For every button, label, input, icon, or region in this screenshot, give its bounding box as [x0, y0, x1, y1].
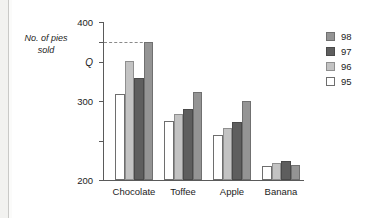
bar-banana-96 [272, 163, 282, 180]
legend-label-96: 96 [341, 61, 352, 72]
bar-chocolate-98 [144, 42, 154, 180]
x-axis-label-chocolate: Chocolate [113, 186, 156, 197]
y-axis-title: No. of pies sold [6, 33, 86, 56]
q-tick-mark: Q [99, 42, 103, 43]
bar-toffee-96 [174, 114, 184, 180]
legend: 98979695 [326, 29, 370, 89]
y-tick-mark: 400 [99, 22, 103, 23]
x-axis-label-toffee: Toffee [170, 186, 196, 197]
bar-apple-95 [213, 135, 223, 180]
legend-item-95[interactable]: 95 [326, 74, 370, 89]
bar-apple-96 [223, 128, 233, 180]
legend-item-97[interactable]: 97 [326, 44, 370, 59]
bar-chocolate-97 [134, 78, 144, 180]
legend-swatch-icon-98 [326, 32, 335, 41]
bar-chart-figure: No. of pies sold 0100200300400 Q Chocola… [0, 0, 374, 218]
legend-label-95: 95 [341, 76, 352, 87]
x-axis-line [103, 180, 304, 181]
y-tick-label: 200 [77, 175, 93, 186]
x-axis-label-apple: Apple [220, 186, 244, 197]
y-axis-title-line1: No. of pies [24, 33, 67, 43]
q-axis-label: Q [85, 56, 93, 67]
x-axis-label-banana: Banana [265, 186, 298, 197]
legend-swatch-icon-95 [326, 77, 335, 86]
legend-item-98[interactable]: 98 [326, 29, 370, 44]
y-tick-label: 400 [77, 17, 93, 28]
bar-toffee-98 [193, 92, 203, 180]
y-axis-line [103, 22, 104, 181]
legend-item-96[interactable]: 96 [326, 59, 370, 74]
bar-toffee-97 [183, 109, 193, 180]
y-tick-mark: 300 [99, 62, 103, 63]
bar-chocolate-95 [115, 94, 125, 180]
legend-swatch-icon-97 [326, 47, 335, 56]
bar-apple-97 [232, 122, 242, 180]
bar-banana-95 [262, 166, 272, 180]
bar-apple-98 [242, 101, 252, 180]
bar-toffee-95 [164, 121, 174, 180]
legend-swatch-icon-96 [326, 62, 335, 71]
y-tick-mark: 200 [99, 101, 103, 102]
y-tick-mark: 100 [99, 141, 103, 142]
legend-label-97: 97 [341, 46, 352, 57]
y-tick-mark: 0 [99, 180, 103, 181]
bar-banana-97 [281, 161, 291, 180]
plot-area: 0100200300400 Q ChocolateToffeeAppleBana… [103, 22, 303, 180]
bar-banana-98 [291, 165, 301, 180]
bar-chocolate-96 [125, 61, 135, 180]
y-axis-title-line2: sold [38, 45, 55, 55]
legend-label-98: 98 [341, 31, 352, 42]
y-tick-label: 300 [77, 96, 93, 107]
